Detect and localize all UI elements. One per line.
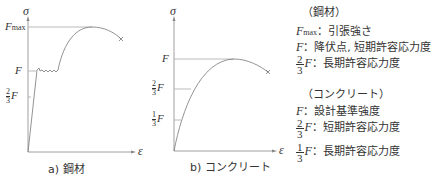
legend-steel-item-fmax: Fmax：引張強さ <box>296 24 372 40</box>
concrete-sigma-label: σ <box>170 4 176 19</box>
concrete-tick-13f: 13F <box>152 111 164 128</box>
legend-concrete-item-f: F：設計基準強度 <box>296 104 380 119</box>
legend-steel-item-23f: 23F：長期許容応力度 <box>296 54 400 75</box>
steel-tick-f: F <box>15 64 22 76</box>
legend-concrete-heading: （コンクリート） <box>302 88 390 102</box>
concrete-fracture-icon <box>266 70 270 74</box>
legend-steel-heading: （鋼材） <box>302 6 346 20</box>
steel-fracture-icon <box>119 37 123 41</box>
steel-tick-fmax: Fmax <box>5 20 26 32</box>
steel-epsilon-label: ε <box>138 144 143 159</box>
concrete-caption: b) コンクリート <box>190 158 271 174</box>
steel-tick-23f: 23F <box>6 88 18 105</box>
legend-steel-item-f: F：降伏点, 短期許容応力度 <box>296 40 431 55</box>
steel-sigma-label: σ <box>23 4 29 19</box>
concrete-tick-f: F <box>162 52 169 64</box>
concrete-x-arrow-icon <box>272 150 277 153</box>
concrete-epsilon-label: ε <box>279 143 284 158</box>
concrete-curve <box>174 59 268 151</box>
steel-x-arrow-icon <box>131 151 136 154</box>
concrete-tick-23f: 23F <box>152 80 164 97</box>
legend-concrete-item-13f: 13F：長期許容応力度 <box>296 142 400 163</box>
legend-concrete-item-23f: 23F：短期許容応力度 <box>296 118 400 139</box>
steel-curve <box>28 27 121 152</box>
steel-caption: a) 鋼材 <box>48 160 85 176</box>
